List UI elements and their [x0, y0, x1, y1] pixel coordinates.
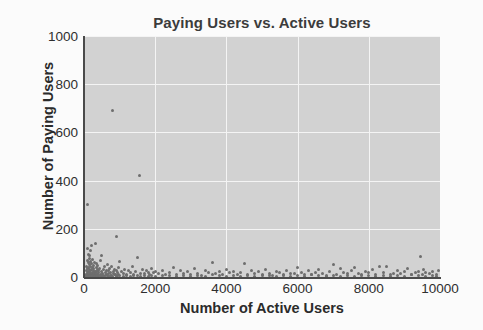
scatter-point	[89, 249, 92, 252]
scatter-point	[350, 269, 353, 272]
scatter-point	[86, 203, 89, 206]
scatter-point	[431, 270, 434, 273]
gridline-vertical	[369, 36, 370, 277]
scatter-point	[300, 271, 303, 274]
gridline-horizontal	[84, 229, 440, 230]
x-axis-spine	[84, 277, 441, 279]
gridline-horizontal	[84, 84, 440, 85]
scatter-point	[90, 244, 93, 247]
scatter-point	[157, 272, 160, 275]
scatter-point	[88, 254, 91, 257]
scatter-point	[186, 270, 189, 273]
scatter-point	[221, 273, 224, 276]
scatter-point	[339, 267, 342, 270]
scatter-point	[250, 269, 253, 272]
scatter-point	[406, 267, 409, 270]
scatter-point	[342, 271, 345, 274]
scatter-point	[161, 269, 164, 272]
scatter-point	[117, 266, 120, 269]
scatter-point	[236, 273, 239, 276]
scatter-point	[428, 272, 431, 275]
y-axis-label: Number of Paying Users	[40, 16, 56, 276]
scatter-point	[307, 269, 310, 272]
scatter-point	[321, 272, 324, 275]
scatter-point	[385, 265, 388, 268]
x-tick-label: 2000	[140, 281, 170, 296]
scatter-point	[106, 263, 109, 266]
scatter-point	[414, 271, 417, 274]
scatter-point	[225, 268, 228, 271]
scatter-point	[332, 263, 335, 266]
x-tick-label: 6000	[283, 281, 313, 296]
gridline-horizontal	[84, 36, 440, 37]
x-tick-label: 0	[80, 281, 88, 296]
scatter-point	[264, 268, 267, 271]
x-tick-label: 4000	[211, 281, 241, 296]
scatter-point	[123, 268, 126, 271]
scatter-point	[207, 271, 210, 274]
scatter-point	[214, 272, 217, 275]
scatter-point	[293, 272, 296, 275]
scatter-point	[278, 271, 281, 274]
scatter-point	[243, 262, 246, 265]
scatter-point	[172, 266, 175, 269]
scatter-point	[317, 268, 320, 271]
scatter-point	[296, 266, 299, 269]
scatter-point	[164, 273, 167, 276]
scatter-point	[437, 269, 440, 272]
scatter-point	[353, 266, 356, 269]
scatter-point	[328, 270, 331, 273]
scatter-point	[129, 271, 132, 274]
scatter-point	[218, 270, 221, 273]
scatter-point	[118, 260, 121, 263]
scatter-point	[211, 273, 214, 276]
scatter-point	[232, 270, 235, 273]
scatter-point	[228, 271, 231, 274]
x-tick-label: 8000	[354, 281, 384, 296]
x-axis-tick-labels: 0200040006000800010000	[84, 281, 440, 299]
gridline-horizontal	[84, 181, 440, 182]
scatter-point	[211, 261, 214, 264]
chart-title: Paying Users vs. Active Users	[84, 14, 440, 31]
scatter-point	[310, 273, 313, 276]
scatter-point	[396, 269, 399, 272]
scatter-point	[335, 273, 338, 276]
scatter-point	[100, 254, 103, 257]
scatter-point	[357, 272, 360, 275]
scatter-point	[417, 270, 420, 273]
gridline-horizontal	[84, 132, 440, 133]
scatter-point	[399, 272, 402, 275]
scatter-point	[154, 270, 157, 273]
scatter-point	[94, 242, 97, 245]
scatter-point	[421, 273, 424, 276]
scatter-point	[314, 271, 317, 274]
scatter-point	[136, 256, 139, 259]
scatter-point	[257, 270, 260, 273]
scatter-point	[371, 268, 374, 271]
scatter-point	[378, 265, 381, 268]
gridline-vertical	[226, 36, 227, 277]
scatter-point	[111, 109, 114, 112]
gridline-vertical	[298, 36, 299, 277]
x-axis-label: Number of Active Users	[84, 300, 440, 316]
scatter-point	[424, 271, 427, 274]
scatter-point	[410, 273, 413, 276]
scatter-point	[419, 255, 422, 258]
scatter-point	[150, 267, 153, 270]
scatter-point	[141, 268, 144, 271]
scatter-point	[204, 269, 207, 272]
scatter-point	[275, 270, 278, 273]
scatter-point	[138, 174, 141, 177]
scatter-point	[239, 271, 242, 274]
scatter-point	[403, 270, 406, 273]
scatter-point	[179, 269, 182, 272]
scatter-point	[193, 267, 196, 270]
gridline-vertical	[155, 36, 156, 277]
scatter-point	[285, 269, 288, 272]
scatter-point	[99, 259, 102, 262]
scatter-point	[364, 270, 367, 273]
scatter-point	[392, 272, 395, 275]
scatter-point	[134, 270, 137, 273]
scatter-point	[115, 235, 118, 238]
y-axis-spine	[83, 36, 85, 278]
